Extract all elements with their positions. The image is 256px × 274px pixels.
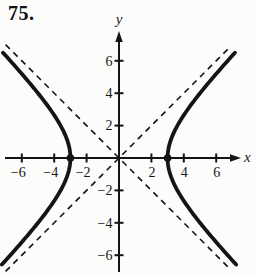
y-tick-label: 6: [106, 54, 113, 69]
y-tick-label: 2: [106, 118, 113, 133]
x-tick-label: −4: [43, 165, 58, 180]
x-tick-label: 2: [148, 165, 155, 180]
y-axis-arrowhead: [115, 31, 122, 42]
x-tick-label: −2: [76, 165, 91, 180]
textbook-figure: 75. −6−4−2246642−2−4−6 x y: [0, 0, 256, 274]
vertex-point: [164, 154, 172, 162]
hyperbola-graph: −6−4−2246642−2−4−6 x y: [0, 0, 256, 274]
x-axis-label: x: [243, 149, 251, 165]
x-axis-arrowhead: [230, 154, 241, 162]
x-tick-label: −6: [11, 165, 26, 180]
y-tick-label: 4: [106, 86, 113, 101]
x-tick-label: 4: [181, 165, 188, 180]
y-tick-label: −4: [98, 216, 113, 231]
vertex-point: [67, 154, 75, 162]
y-tick-label: −2: [98, 183, 113, 198]
y-tick-label: −6: [98, 248, 113, 263]
y-axis-label: y: [114, 11, 123, 27]
x-tick-label: 6: [213, 165, 220, 180]
